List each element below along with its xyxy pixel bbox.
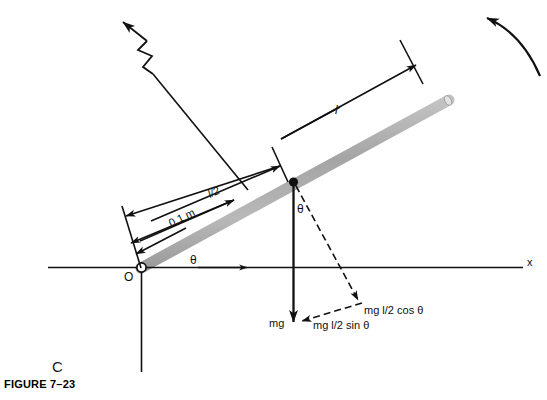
dimension-tick-half-right	[272, 147, 288, 182]
panel-letter-label: C	[52, 358, 63, 375]
dimension-tick-right	[400, 40, 423, 84]
origin-label: O	[124, 271, 133, 283]
theta-center-label: θ	[297, 203, 304, 215]
dimension-tick-origin	[122, 206, 141, 268]
component-vector-cos	[296, 186, 358, 300]
full-length-label: l	[335, 104, 338, 116]
figure-container: x O θ θ l l/2 0.1 m mg mg l/2 cos θ mg l…	[0, 0, 547, 400]
figure-caption: FIGURE 7–23	[4, 378, 75, 390]
torque-cos-label: mg l/2 cos θ	[364, 305, 423, 316]
weight-label: mg	[269, 318, 284, 329]
torque-sin-label: mg l/2 sin θ	[313, 320, 369, 331]
theta-base-label: θ	[190, 254, 197, 266]
broken-extension-line	[123, 22, 248, 190]
center-of-mass-dot	[289, 177, 298, 186]
x-axis-label: x	[527, 257, 533, 268]
rotation-direction-arrow	[487, 18, 540, 76]
physics-diagram	[0, 0, 547, 400]
